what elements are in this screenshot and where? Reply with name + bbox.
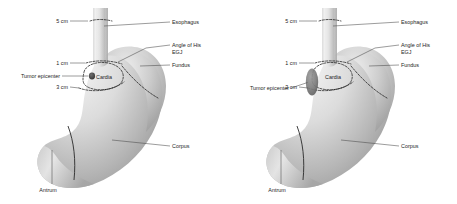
measure-label-3cm: 3 cm (56, 84, 68, 90)
label-angle-of-his: Angle of His (172, 42, 201, 48)
measure-label-1cm: 1 cm (285, 60, 297, 66)
leader-esophagus (104, 22, 170, 26)
label-cardia: Cardia (325, 74, 341, 80)
label-fundus: Fundus (401, 62, 419, 68)
stomach-diagram-left: 5 cm 1 cm 3 cm Tumor epicenter Cardia Es… (0, 0, 228, 204)
tumor-epicenter-marker (89, 73, 95, 80)
label-angle-of-his: Angle of His (401, 42, 430, 48)
label-antrum: Antrum (268, 187, 286, 193)
measure-label-1cm: 1 cm (56, 60, 68, 66)
measure-label-5cm: 5 cm (285, 18, 297, 24)
label-egj: EGJ (401, 49, 412, 55)
tumor-epicenter-marker (306, 69, 318, 96)
stomach-body-shape (266, 8, 395, 188)
label-corpus: Corpus (172, 143, 190, 149)
label-antrum: Antrum (39, 187, 57, 193)
label-fundus: Fundus (172, 62, 190, 68)
label-esophagus: Esophagus (401, 19, 428, 25)
stomach-diagram-right: 5 cm 1 cm 3 cm Tumor epicenter Cardia Es… (229, 0, 457, 204)
label-egj: EGJ (172, 49, 183, 55)
leader-esophagus (333, 22, 399, 26)
leader-3cm (70, 87, 79, 88)
label-corpus: Corpus (401, 143, 419, 149)
stomach-body-shape (37, 8, 166, 188)
label-cardia: Cardia (96, 74, 112, 80)
figure-canvas: 5 cm 1 cm 3 cm Tumor epicenter Cardia Es… (0, 0, 457, 204)
measure-label-5cm: 5 cm (56, 18, 68, 24)
label-tumor-epicenter: Tumor epicenter (250, 85, 289, 91)
label-tumor-epicenter: Tumor epicenter (21, 73, 60, 79)
label-esophagus: Esophagus (172, 19, 199, 25)
